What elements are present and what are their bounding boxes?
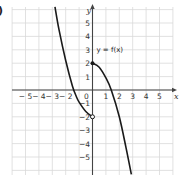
x-axis-label: x [174,92,179,101]
x-tick-label: 2 [117,92,122,101]
y-tick-label: 2 [85,59,90,68]
curve-right-piece [93,63,132,174]
x-tick-label: 3 [130,92,135,101]
function-graph: xy− 5− 4− 3− 201234554321−1−2−3−4−5y = f… [0,0,180,184]
y-tick-label: −4 [79,140,90,149]
x-tick-label: − 3 [46,92,60,101]
x-tick-label: − 4 [32,92,46,101]
closed-endpoint-marker [91,61,95,65]
y-tick-label: −5 [79,153,90,162]
y-tick-label: 3 [85,46,90,55]
y-tick-label: −3 [79,126,90,135]
x-tick-label: − 2 [59,92,73,101]
x-tick-label: 1 [104,92,109,101]
y-tick-label: 5 [85,19,90,28]
x-tick-label: − 5 [19,92,33,101]
x-tick-label: 4 [144,92,149,101]
y-tick-label: 1 [85,73,90,82]
y-axis-label: y [86,6,92,15]
open-endpoint-marker [91,115,95,119]
y-tick-label: 4 [85,32,90,41]
x-tick-label: 5 [157,92,162,101]
curve-label: y = f(x) [97,46,124,54]
